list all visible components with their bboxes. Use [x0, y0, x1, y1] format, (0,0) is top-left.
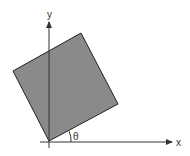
- x-axis-label: x: [176, 137, 181, 148]
- angle-label: θ: [73, 131, 79, 142]
- angle-arc: [69, 131, 71, 142]
- diagram-canvas: y x θ: [0, 0, 190, 156]
- rotated-square: [13, 33, 118, 141]
- y-axis-label: y: [47, 9, 52, 20]
